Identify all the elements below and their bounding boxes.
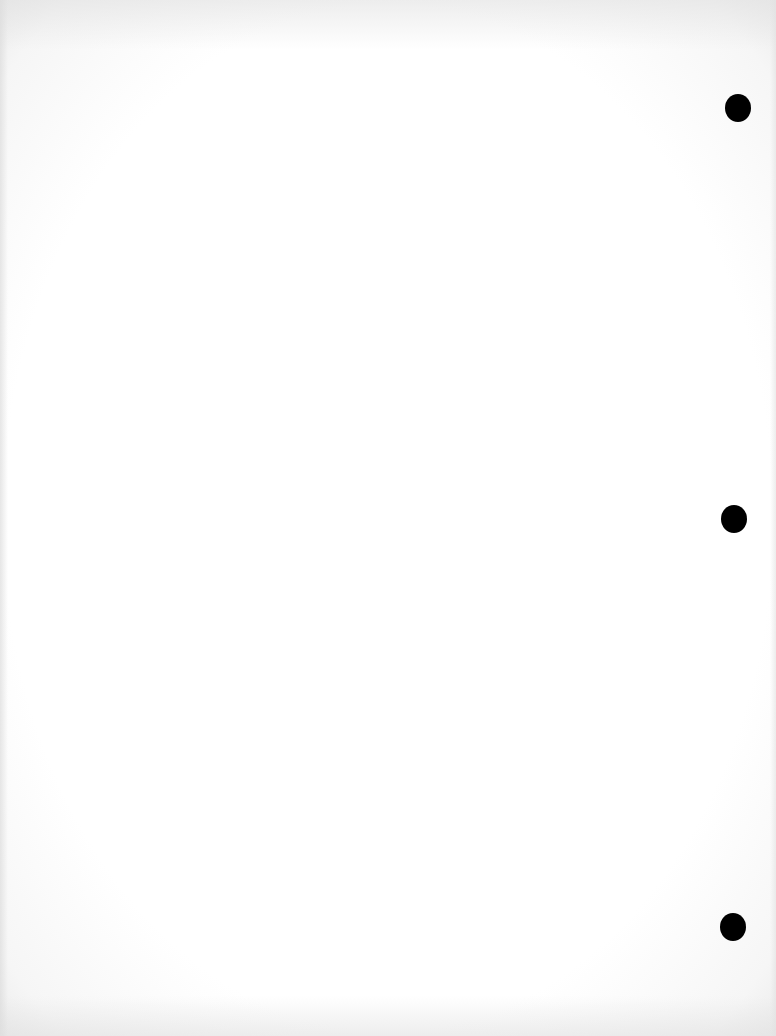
punch-hole-middle-icon <box>721 505 747 533</box>
punch-hole-top-icon <box>725 94 751 122</box>
scan-edge-shadow-left <box>0 0 8 1036</box>
punch-hole-bottom-icon <box>720 913 746 941</box>
scan-edge-shadow-right <box>770 0 776 1036</box>
scan-edge-shadow-top <box>0 0 776 50</box>
scan-edge-shadow-bottom <box>0 996 776 1036</box>
blank-page <box>0 0 776 1036</box>
